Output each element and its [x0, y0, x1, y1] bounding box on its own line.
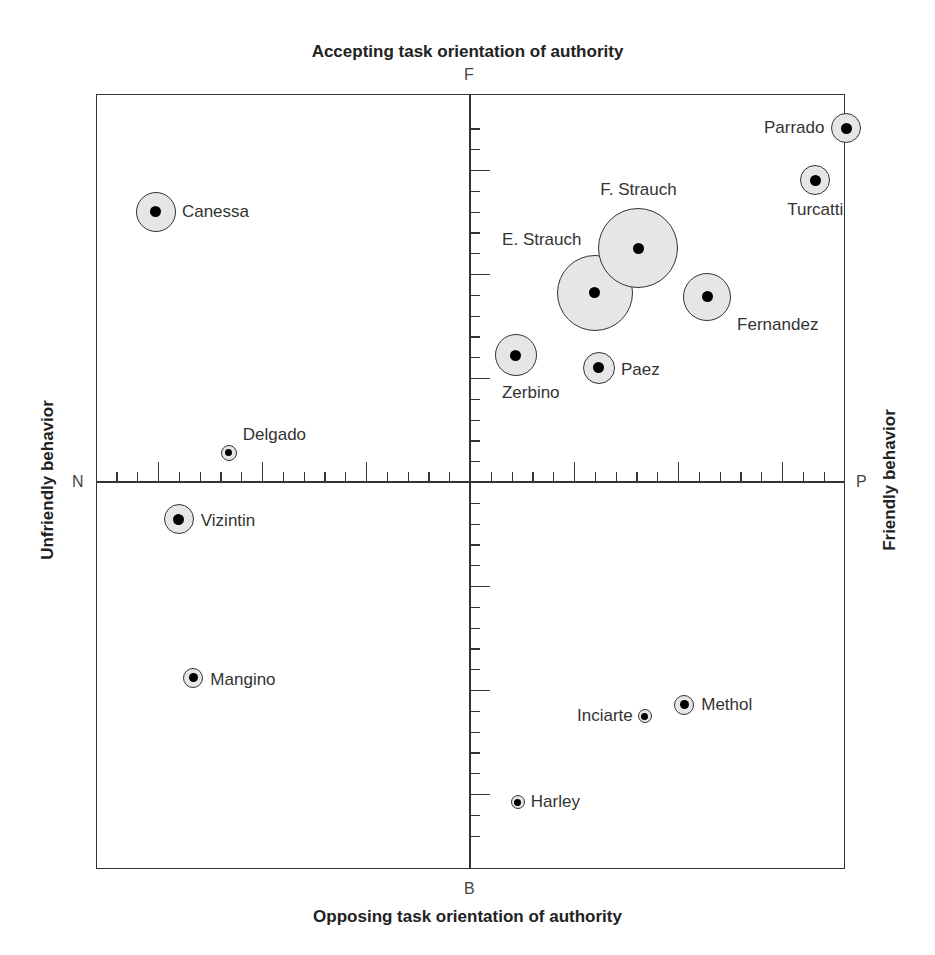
x-axis-tick: [553, 472, 554, 482]
data-point-center-dot: [702, 291, 713, 302]
horizontal-axis: [96, 481, 845, 483]
x-axis-tick: [532, 472, 533, 482]
x-axis-tick: [803, 472, 804, 482]
y-axis-tick: [470, 628, 480, 629]
x-axis-tick: [699, 472, 700, 482]
y-axis-tick: [470, 128, 480, 129]
data-point-label: E. Strauch: [502, 230, 581, 250]
x-axis-tick: [241, 472, 242, 482]
pole-left-label: N: [72, 473, 84, 491]
y-axis-tick: [470, 669, 480, 670]
y-axis-tick: [470, 524, 480, 525]
pole-bottom-label: B: [464, 880, 475, 898]
y-axis-tick: [470, 420, 480, 421]
x-axis-tick: [366, 462, 367, 482]
x-axis-tick: [262, 462, 263, 482]
y-axis-tick: [470, 711, 480, 712]
y-axis-tick: [470, 316, 480, 317]
y-axis-tick: [470, 440, 480, 441]
y-axis-tick: [470, 295, 480, 296]
y-axis-tick: [470, 773, 480, 774]
data-point-label: Harley: [531, 792, 580, 812]
y-axis-tick: [470, 399, 480, 400]
y-axis-tick: [470, 149, 480, 150]
y-axis-tick: [470, 648, 480, 649]
x-axis-tick: [512, 472, 513, 482]
y-axis-tick: [470, 503, 480, 504]
y-axis-tick: [470, 232, 480, 233]
data-point-label: Zerbino: [502, 383, 560, 403]
data-point-center-dot: [641, 713, 648, 720]
data-point-label: Methol: [701, 695, 752, 715]
x-axis-tick: [158, 462, 159, 482]
x-axis-tick: [678, 462, 679, 482]
x-axis-tick: [304, 472, 305, 482]
data-point-label: Inciarte: [577, 706, 633, 726]
data-point-center-dot: [189, 673, 198, 682]
x-axis-tick: [761, 472, 762, 482]
data-point-label: Turcatti: [787, 200, 843, 220]
bottom-axis-title: Opposing task orientation of authority: [0, 907, 935, 927]
y-axis-tick: [470, 732, 480, 733]
x-axis-tick: [720, 472, 721, 482]
x-axis-tick: [387, 472, 388, 482]
y-axis-tick: [470, 191, 480, 192]
y-axis-tick: [470, 378, 490, 379]
y-axis-tick: [470, 836, 480, 837]
y-axis-tick: [470, 565, 480, 566]
y-axis-tick: [470, 607, 480, 608]
x-axis-tick: [616, 472, 617, 482]
y-axis-tick: [470, 752, 480, 753]
x-axis-tick: [116, 472, 117, 482]
y-axis-tick: [470, 794, 490, 795]
x-axis-tick: [283, 472, 284, 482]
y-axis-tick: [470, 336, 480, 337]
x-axis-tick: [636, 472, 637, 482]
x-axis-tick: [220, 472, 221, 482]
x-axis-tick: [324, 472, 325, 482]
y-axis-tick: [470, 357, 480, 358]
y-axis-tick: [470, 544, 480, 545]
x-axis-tick: [408, 472, 409, 482]
data-point-label: Paez: [621, 360, 660, 380]
data-point-center-dot: [841, 123, 852, 134]
data-point-label: Canessa: [182, 202, 249, 222]
y-axis-tick: [470, 170, 490, 171]
data-point-label: Vizintin: [201, 511, 256, 531]
x-axis-tick: [595, 472, 596, 482]
x-axis-tick: [345, 472, 346, 482]
data-point-center-dot: [810, 175, 821, 186]
y-axis-tick: [470, 274, 490, 275]
y-axis-tick: [470, 461, 480, 462]
y-axis-tick: [470, 690, 490, 691]
data-point-label: Mangino: [210, 670, 275, 690]
x-axis-tick: [657, 472, 658, 482]
y-axis-tick: [470, 586, 490, 587]
x-axis-tick: [824, 472, 825, 482]
x-axis-tick: [137, 472, 138, 482]
pole-top-label: F: [464, 66, 474, 84]
left-axis-title: Unfriendly behavior: [38, 380, 58, 580]
x-axis-tick: [179, 472, 180, 482]
x-axis-tick: [200, 472, 201, 482]
y-axis-tick: [470, 212, 480, 213]
y-axis-tick: [470, 253, 480, 254]
data-point-center-dot: [680, 700, 689, 709]
x-axis-tick: [782, 462, 783, 482]
data-point-center-dot: [510, 350, 521, 361]
y-axis-tick: [470, 815, 480, 816]
x-axis-tick: [574, 462, 575, 482]
x-axis-tick: [491, 472, 492, 482]
top-axis-title: Accepting task orientation of authority: [0, 42, 935, 62]
pole-right-label: P: [856, 473, 867, 491]
data-point-label: Delgado: [243, 425, 306, 445]
data-point-label: F. Strauch: [600, 180, 677, 200]
right-axis-title: Friendly behavior: [880, 380, 900, 580]
x-axis-tick: [428, 472, 429, 482]
data-point-label: Fernandez: [737, 315, 818, 335]
data-point-label: Parrado: [764, 118, 824, 138]
data-point-center-dot: [633, 243, 644, 254]
x-axis-tick: [449, 472, 450, 482]
x-axis-tick: [740, 472, 741, 482]
